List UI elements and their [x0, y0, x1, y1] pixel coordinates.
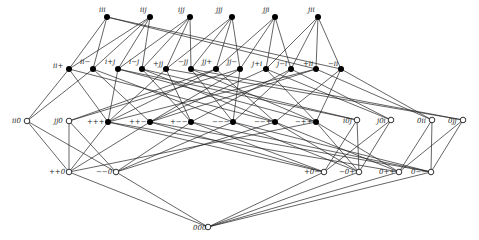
- node-filled: j+i: [250, 60, 269, 72]
- node-marker: [24, 118, 30, 124]
- node-marker: [356, 169, 362, 175]
- node-filled: jji: [261, 6, 278, 20]
- node-marker: [229, 14, 235, 20]
- node-label: i−j: [129, 58, 140, 66]
- node-label: ++0: [49, 168, 66, 176]
- node-open: 0++: [379, 168, 402, 176]
- node-open: −−0: [96, 168, 119, 176]
- node-filled: −jj: [178, 58, 194, 72]
- node-marker: [105, 119, 111, 125]
- node-open: −0+: [339, 168, 362, 176]
- node-label: j+i: [250, 60, 262, 68]
- diagram-canvas: iiiiijijjjjjjjijiiii+ii−i+ji−j+jj−jjjj+j…: [0, 0, 479, 240]
- node-label: jjj: [214, 6, 223, 14]
- node-label: ii+: [53, 62, 63, 70]
- edge: [150, 122, 324, 172]
- node-marker: [188, 66, 194, 72]
- node-label: ++−: [129, 118, 147, 126]
- node-open: j0i: [375, 117, 394, 125]
- node-marker: [272, 119, 278, 125]
- node-filled: ii+: [53, 62, 72, 72]
- edge: [69, 121, 116, 172]
- node-label: jj0: [52, 117, 63, 125]
- node-filled: iij: [140, 6, 153, 20]
- edge: [142, 69, 191, 122]
- node-marker: [313, 66, 319, 72]
- node-label: j−i: [275, 60, 287, 68]
- node-marker: [187, 14, 193, 20]
- node-label: i0j: [343, 117, 353, 125]
- node-label: 0−−: [411, 168, 427, 176]
- edge: [27, 69, 69, 121]
- node-marker: [313, 119, 319, 125]
- node-marker: [315, 14, 321, 20]
- edge: [431, 120, 463, 172]
- node-marker: [230, 119, 236, 125]
- edge: [208, 172, 431, 227]
- node-label: +ii: [303, 60, 313, 68]
- edge: [191, 69, 316, 122]
- node-label: −−0: [96, 168, 113, 176]
- node-marker: [288, 66, 294, 72]
- node-marker: [147, 14, 153, 20]
- edge: [233, 122, 431, 172]
- edge: [208, 172, 399, 227]
- node-open: 0−−: [411, 168, 434, 176]
- edge: [316, 17, 318, 69]
- edge: [275, 122, 359, 172]
- node-marker: [396, 169, 402, 175]
- node-label: 000: [193, 224, 207, 232]
- edge: [69, 122, 108, 172]
- edge: [191, 122, 431, 172]
- node-filled: +++: [87, 118, 111, 126]
- node-marker: [237, 66, 243, 72]
- node-marker: [460, 117, 466, 123]
- node-filled: −ii: [328, 60, 344, 72]
- node-open: +0−: [304, 168, 327, 176]
- node-open: ++0: [49, 168, 72, 176]
- edge: [191, 69, 291, 122]
- node-label: jji: [261, 6, 270, 14]
- node-marker: [147, 119, 153, 125]
- node-marker: [66, 118, 72, 124]
- edge: [275, 122, 399, 172]
- node-filled: j−i: [275, 60, 294, 72]
- edge: [27, 69, 93, 121]
- node-label: −jj: [178, 58, 189, 66]
- node-label: +−−: [170, 118, 188, 126]
- node-marker: [321, 169, 327, 175]
- node-marker: [388, 117, 394, 123]
- edge: [341, 69, 432, 120]
- node-label: jii: [306, 6, 315, 14]
- node-filled: ii−: [80, 58, 96, 72]
- node-label: −−+: [254, 118, 272, 126]
- node-filled: +−−: [170, 118, 194, 126]
- hasse-diagram: iiiiijijjjjjjjijiiii+ii−i+ji−j+jj−jjjj+j…: [0, 0, 479, 240]
- node-filled: jjj: [214, 6, 235, 20]
- node-marker: [163, 66, 169, 72]
- node-marker: [113, 169, 119, 175]
- node-filled: −−+: [254, 118, 278, 126]
- node-marker: [115, 66, 121, 72]
- node-filled: −−−: [212, 118, 236, 126]
- node-filled: i+j: [105, 58, 121, 72]
- node-label: jj−: [225, 58, 237, 66]
- node-marker: [213, 66, 219, 72]
- node-open: jj0: [52, 117, 72, 125]
- edge: [399, 120, 432, 172]
- node-open: ii0: [12, 117, 30, 125]
- node-marker: [338, 66, 344, 72]
- node-filled: ++−: [129, 118, 153, 126]
- node-label: iii: [99, 6, 106, 14]
- node-marker: [188, 119, 194, 125]
- node-open: 000: [193, 224, 211, 232]
- edge: [27, 121, 69, 172]
- node-label: −−−: [212, 118, 230, 126]
- edge: [166, 69, 191, 122]
- node-label: jj+: [200, 58, 212, 66]
- edge: [150, 69, 266, 122]
- edge: [116, 172, 208, 227]
- node-marker: [139, 66, 145, 72]
- edge: [108, 122, 399, 172]
- node-label: iij: [140, 6, 147, 14]
